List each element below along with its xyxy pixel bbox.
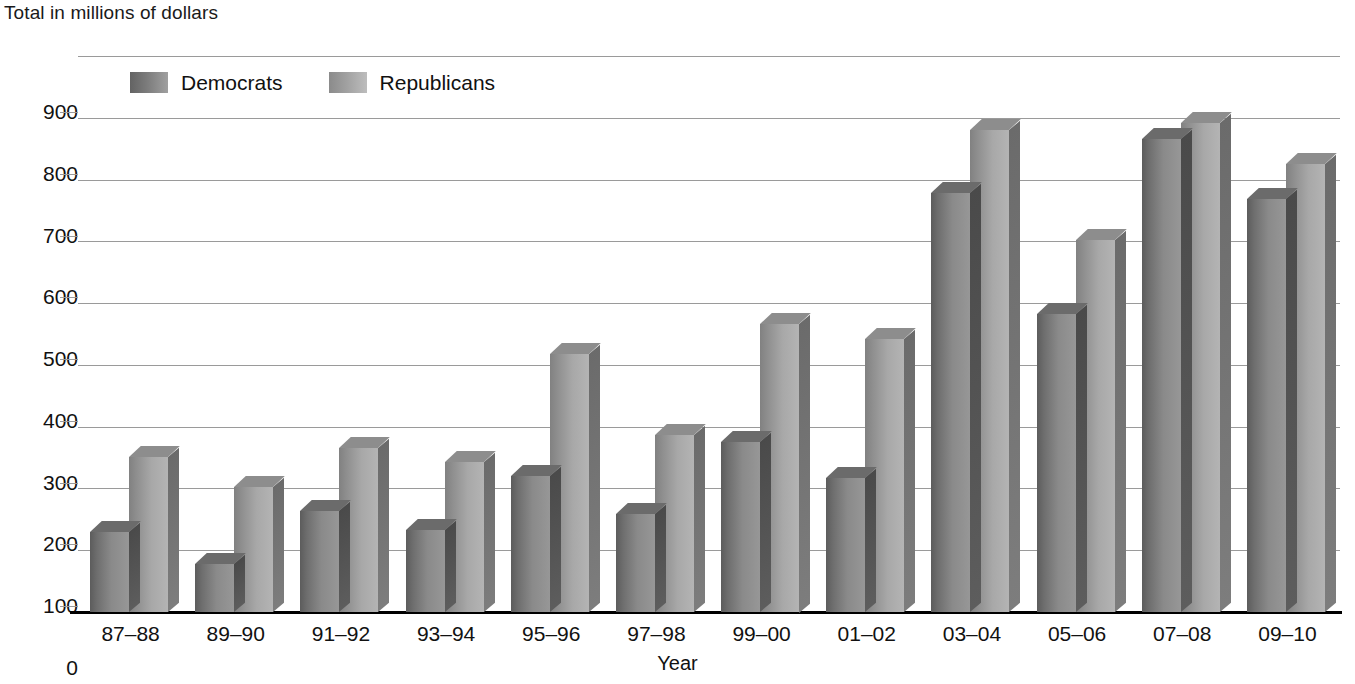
x-axis-tick-label: 87–88	[101, 622, 159, 646]
bar-front-face	[406, 530, 445, 612]
bar-side-face	[1325, 155, 1336, 612]
bar-side-face	[799, 314, 810, 612]
bar-group	[499, 56, 604, 612]
bar-front-face	[1247, 199, 1286, 612]
legend-item-democrats: Democrats	[130, 72, 283, 93]
bar-side-face	[129, 522, 140, 612]
y-axis-tick-mark	[60, 544, 78, 545]
bar-side-face	[694, 425, 705, 612]
x-axis-tick-label: 95–96	[522, 622, 580, 646]
x-axis-tick-label: 97–98	[627, 622, 685, 646]
bar-democrats	[195, 564, 234, 612]
bar-front-face	[195, 564, 234, 612]
x-axis-tick-labels: 87–8889–9091–9293–9495–9697–9899–0001–02…	[78, 622, 1340, 652]
legend-swatch-democrats	[130, 72, 168, 93]
bar-group	[288, 56, 393, 612]
bar-democrats	[300, 511, 339, 612]
bar-side-face	[655, 505, 666, 612]
bar-side-face	[1009, 121, 1020, 612]
bar-group	[183, 56, 288, 612]
bar-side-face	[760, 433, 771, 612]
y-axis-tick-mark	[60, 112, 78, 113]
bar-group	[78, 56, 183, 612]
bar-chart: Total in millions of dollars 01002003004…	[0, 0, 1355, 684]
bar-side-face	[970, 183, 981, 612]
bar-democrats	[90, 532, 129, 612]
bar-democrats	[721, 442, 760, 612]
y-axis-tick-mark	[60, 236, 78, 237]
bar-front-face	[931, 193, 970, 612]
y-axis-tick-mark	[60, 606, 78, 607]
bar-group	[919, 56, 1024, 612]
y-axis-tick-mark	[60, 483, 78, 484]
bar-democrats	[616, 514, 655, 612]
bar-side-face	[378, 439, 389, 612]
bar-democrats	[1037, 314, 1076, 612]
bar-democrats	[826, 478, 865, 612]
bar-group	[1235, 56, 1340, 612]
bar-side-face	[550, 467, 561, 612]
bar-side-face	[1181, 130, 1192, 612]
bar-front-face	[511, 476, 550, 612]
bar-group	[394, 56, 499, 612]
y-axis-tick-mark	[60, 359, 78, 360]
bar-side-face	[484, 453, 495, 612]
bar-side-face	[168, 448, 179, 612]
bar-democrats	[931, 193, 970, 612]
bar-democrats	[511, 476, 550, 612]
x-axis-title: Year	[0, 652, 1355, 674]
plot-area	[78, 56, 1340, 612]
bar-group	[709, 56, 814, 612]
legend-label-republicans: Republicans	[380, 72, 496, 93]
bar-group	[1025, 56, 1130, 612]
bar-democrats	[406, 530, 445, 612]
bars-layer	[78, 56, 1340, 612]
bar-front-face	[826, 478, 865, 612]
chart-title: Total in millions of dollars	[4, 2, 218, 24]
x-axis-tick-label: 05–06	[1048, 622, 1106, 646]
bar-front-face	[616, 514, 655, 612]
bar-side-face	[1115, 231, 1126, 612]
x-axis-tick-label: 09–10	[1258, 622, 1316, 646]
bar-side-face	[589, 345, 600, 612]
x-axis-tick-label: 03–04	[943, 622, 1001, 646]
bar-side-face	[865, 469, 876, 612]
x-axis-tick-label: 99–00	[732, 622, 790, 646]
bar-front-face	[300, 511, 339, 612]
y-axis: 0100200300400500600700800900	[0, 56, 78, 612]
bar-side-face	[1220, 114, 1231, 612]
chart-legend: Democrats Republicans	[130, 72, 495, 93]
y-axis-tick-mark	[60, 174, 78, 175]
bar-front-face	[721, 442, 760, 612]
x-axis-tick-label: 01–02	[838, 622, 896, 646]
bar-front-face	[90, 532, 129, 612]
y-axis-tick-mark	[60, 297, 78, 298]
x-axis-tick-label: 93–94	[417, 622, 475, 646]
legend-label-democrats: Democrats	[181, 72, 283, 93]
x-axis-tick-label: 89–90	[207, 622, 265, 646]
bar-front-face	[1142, 139, 1181, 612]
bar-side-face	[234, 555, 245, 612]
bar-group	[1130, 56, 1235, 612]
bar-side-face	[1076, 304, 1087, 612]
x-axis-tick-label: 91–92	[312, 622, 370, 646]
x-axis-tick-label: 07–08	[1153, 622, 1211, 646]
bar-side-face	[273, 478, 284, 612]
bar-side-face	[445, 521, 456, 612]
bar-side-face	[339, 502, 350, 612]
bar-group	[604, 56, 709, 612]
bar-democrats	[1142, 139, 1181, 612]
legend-item-republicans: Republicans	[329, 72, 496, 93]
bar-side-face	[904, 330, 915, 612]
bar-group	[814, 56, 919, 612]
legend-swatch-republicans	[329, 72, 367, 93]
bar-side-face	[1286, 190, 1297, 612]
bar-front-face	[1037, 314, 1076, 612]
y-axis-tick-mark	[60, 421, 78, 422]
bar-democrats	[1247, 199, 1286, 612]
